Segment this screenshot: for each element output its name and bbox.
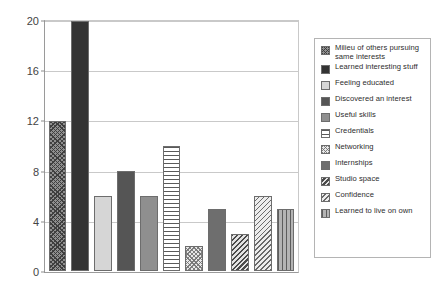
y-tick-mark [41, 221, 45, 222]
y-tick-mark [41, 121, 45, 122]
bar [117, 171, 135, 271]
legend-item: Confidence [321, 191, 425, 205]
legend-item-label: Learned interesting stuff [335, 63, 418, 72]
legend-swatch-icon [321, 161, 330, 170]
bar [208, 209, 226, 272]
legend-swatch-icon [321, 97, 330, 106]
legend-item-label: Studio space [335, 175, 380, 184]
legend-item: Learned to live on own [321, 207, 425, 221]
legend-item-label: Learned to live on own [335, 207, 413, 216]
legend-swatch-icon [321, 145, 330, 154]
legend-item-label: Credentials [335, 127, 374, 136]
legend-swatch-icon [321, 193, 330, 202]
bar [163, 146, 181, 271]
legend-item-label: Internships [335, 159, 373, 168]
plot-area-wrapper: 048121620 [0, 0, 310, 296]
y-tick-label: 16 [27, 66, 39, 77]
y-tick-mark [41, 71, 45, 72]
legend-swatch-icon [321, 209, 330, 218]
plot-axes: 048121620 [44, 20, 299, 273]
legend-item: Internships [321, 159, 425, 173]
y-tick-label: 12 [27, 116, 39, 127]
legend-item: Studio space [321, 175, 425, 189]
legend-item: Learned interesting stuff [321, 63, 425, 77]
legend-item-label: Confidence [335, 191, 374, 200]
bar [94, 196, 112, 271]
legend-item-label: Networking [335, 143, 373, 152]
bar [49, 121, 67, 271]
legend-item: Useful skills [321, 111, 425, 125]
legend-swatch-icon [321, 177, 330, 186]
legend-items-group: Milieu of others pursuing same interests… [321, 44, 425, 221]
legend-item: Credentials [321, 127, 425, 141]
bar-chart-figure: 048121620 Milieu of others pursuing same… [0, 0, 447, 296]
legend-swatch-icon [321, 113, 330, 122]
bar [231, 234, 249, 272]
y-tick-mark [41, 21, 45, 22]
legend-swatch-icon [321, 65, 330, 74]
y-tick-label: 4 [33, 216, 39, 227]
legend-item: Milieu of others pursuing same interests [321, 44, 425, 61]
bar [185, 246, 203, 271]
y-tick-mark [41, 171, 45, 172]
legend-item-label: Discovered an interest [335, 95, 412, 104]
y-tick-label: 8 [33, 166, 39, 177]
legend-item: Networking [321, 143, 425, 157]
bar [140, 196, 158, 271]
legend-item: Feeling educated [321, 79, 425, 93]
y-tick-label: 0 [33, 267, 39, 278]
legend-item-label: Feeling educated [335, 79, 394, 88]
chart-legend: Milieu of others pursuing same interests… [314, 38, 431, 258]
y-tick-mark [41, 272, 45, 273]
bar [71, 21, 89, 271]
y-tick-label: 20 [27, 16, 39, 27]
bar [254, 196, 272, 271]
bar [277, 209, 295, 272]
legend-item-label: Useful skills [335, 111, 376, 120]
legend-swatch-icon [321, 129, 330, 138]
legend-item-label: Milieu of others pursuing same interests [335, 44, 425, 61]
legend-swatch-icon [321, 81, 330, 90]
legend-item: Discovered an interest [321, 95, 425, 109]
bars-group [46, 21, 297, 271]
legend-swatch-icon [321, 46, 330, 55]
